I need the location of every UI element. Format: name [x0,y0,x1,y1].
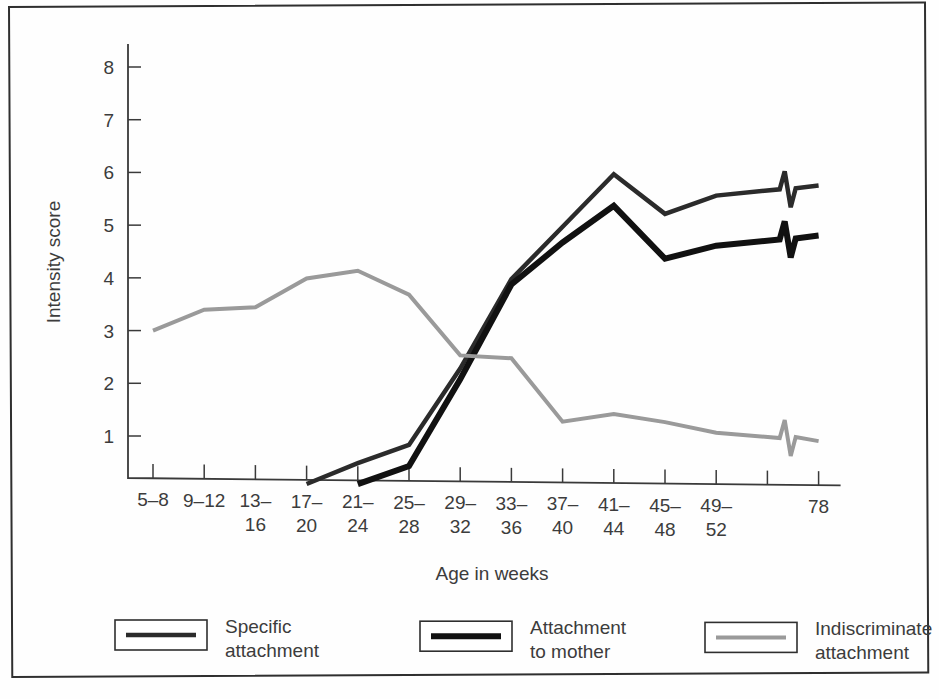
axis-lines [128,44,841,485]
legend-label-line2: attachment [225,640,320,661]
x-tick-label-second-line: 16 [245,514,266,535]
y-tick-label: 2 [103,373,114,394]
x-tick-label: 78 [808,496,829,517]
chart-legend: SpecificattachmentAttachmentto motherInd… [115,616,932,663]
series-specific-attachment [307,171,819,484]
x-tick-label: 13– [240,490,272,511]
y-axis-tick-labels: 12345678 [103,57,114,447]
legend-label-line1: Indiscriminate [815,618,932,639]
x-tick-label: 45– [649,495,681,516]
y-tick-label: 5 [103,215,114,236]
x-tick-label: 33– [496,493,528,514]
plot-area: 12345678 5–89–1213–1617–2021–2425–2829–3… [0,0,939,699]
x-tick-label: 49– [700,495,732,516]
y-tick-label: 4 [103,268,114,289]
data-series-group [153,171,819,484]
y-tick-label: 1 [103,426,114,447]
y-tick-label: 7 [103,110,114,131]
x-tick-label-second-line: 44 [603,518,625,539]
legend-label-line1: Specific [225,616,292,637]
x-tick-label: 17– [291,491,323,512]
series-attachment-to-mother [358,206,819,484]
x-tick-label-second-line: 24 [347,515,369,536]
y-axis-ticks [128,67,141,436]
y-tick-label: 6 [103,162,114,183]
line-chart: 12345678 5–89–1213–1617–2021–2425–2829–3… [0,0,939,699]
x-axis-tick-labels: 5–89–1213–1617–2021–2425–2829–3233–3637–… [137,489,829,540]
x-tick-label-second-line: 28 [398,516,419,537]
x-axis-title: Age in weeks [435,563,548,584]
series-indiscriminate-attachment [153,271,819,456]
x-tick-label-second-line: 36 [501,517,522,538]
chart-page: 12345678 5–89–1213–1617–2021–2425–2829–3… [0,0,939,699]
y-tick-label: 3 [103,321,114,342]
x-tick-label: 25– [393,492,425,513]
x-tick-label: 29– [444,492,476,513]
legend-label-line2: attachment [815,642,910,663]
x-tick-label: 5–8 [137,489,169,510]
x-tick-label: 41– [598,494,630,515]
x-tick-label-second-line: 52 [706,519,727,540]
legend-label-line1: Attachment [530,617,627,638]
x-tick-label-second-line: 48 [654,519,675,540]
x-tick-label: 9–12 [183,490,225,511]
x-tick-label: 21– [342,491,374,512]
x-tick-label-second-line: 32 [450,516,471,537]
x-tick-label-second-line: 20 [296,515,317,536]
legend-label-line2: to mother [530,641,611,662]
y-axis-title: Intensity score [43,201,64,324]
x-tick-label: 37– [547,493,579,514]
y-tick-label: 8 [103,57,114,78]
x-tick-label-second-line: 40 [552,517,573,538]
